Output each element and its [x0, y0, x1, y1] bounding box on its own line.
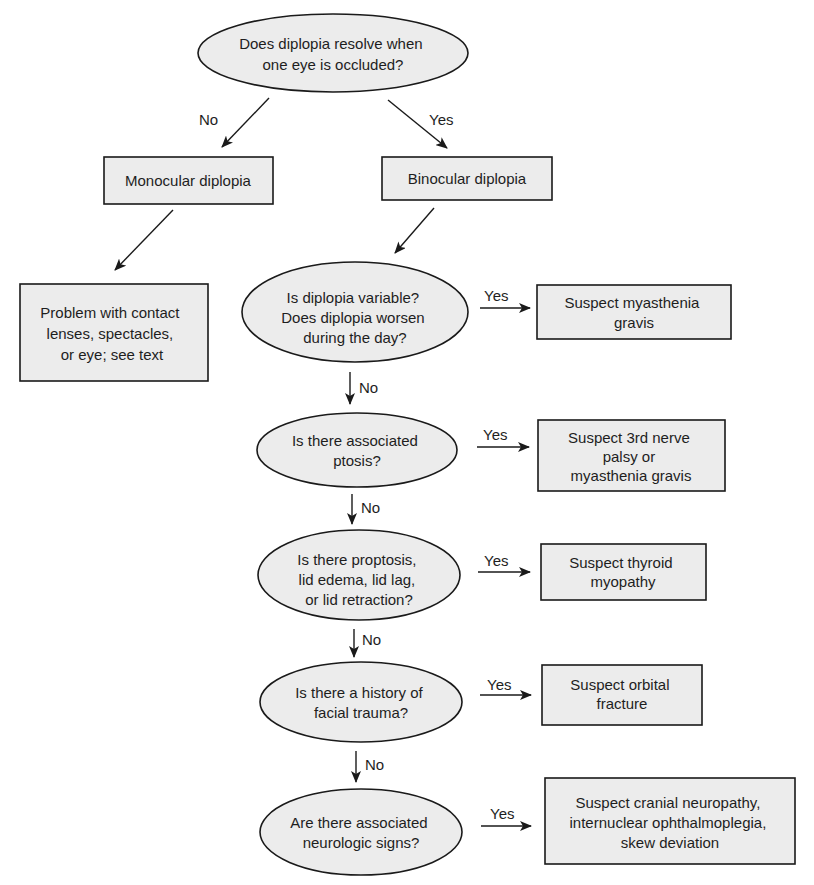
- edge-label-yes: Yes: [483, 426, 507, 443]
- node-q-ptosis: Is there associated ptosis?: [257, 413, 457, 487]
- node-label: Is there proptosis, lid edema, lid lag, …: [297, 551, 420, 608]
- edge-monocular-to-cause: [115, 210, 173, 270]
- edge-label-no: No: [362, 631, 381, 648]
- edge-label-no: No: [361, 499, 380, 516]
- edge-label-no: No: [359, 379, 378, 396]
- node-mono-cause: Problem with contact lenses, spectacles,…: [20, 284, 208, 381]
- node-r-orbital: Suspect orbital fracture: [542, 665, 702, 725]
- edge-label-yes: Yes: [429, 111, 453, 128]
- node-label: Problem with contact lenses, spectacles,…: [40, 304, 183, 363]
- decision-ellipse: [257, 413, 457, 487]
- edge-binocular-to-variable: [395, 208, 434, 253]
- node-q-variable: Is diplopia variable? Does diplopia wors…: [242, 262, 468, 362]
- decision-ellipse: [198, 14, 468, 92]
- result-box: [541, 544, 706, 600]
- node-label: Monocular diplopia: [125, 172, 252, 189]
- node-label: Binocular diplopia: [408, 170, 527, 187]
- edge-label-yes: Yes: [487, 676, 511, 693]
- decision-ellipse: [260, 789, 462, 875]
- diplopia-flowchart: No Yes Yes No Yes No Yes No Yes No Yes D…: [0, 0, 814, 885]
- node-r-thyroid: Suspect thyroid myopathy: [541, 544, 706, 600]
- decision-ellipse: [260, 662, 462, 742]
- edge-label-no: No: [199, 111, 218, 128]
- node-label: Is diplopia variable? Does diplopia wors…: [281, 289, 429, 346]
- node-r-third-nerve: Suspect 3rd nerve palsy or myasthenia gr…: [538, 420, 725, 491]
- node-monocular: Monocular diplopia: [104, 157, 273, 204]
- edge-label-yes: Yes: [484, 552, 508, 569]
- edge-label-no: No: [365, 756, 384, 773]
- node-q-neuro: Are there associated neurologic signs?: [260, 789, 462, 875]
- node-q-occluded: Does diplopia resolve when one eye is oc…: [198, 14, 468, 92]
- node-q-proptosis: Is there proptosis, lid edema, lid lag, …: [258, 530, 460, 620]
- node-r-myasthenia: Suspect myasthenia gravis: [537, 285, 731, 339]
- node-binocular: Binocular diplopia: [382, 157, 552, 200]
- node-q-trauma: Is there a history of facial trauma?: [260, 662, 462, 742]
- edge-occluded-to-monocular: [222, 98, 269, 147]
- edge-label-yes: Yes: [484, 287, 508, 304]
- node-r-cranial: Suspect cranial neuropathy, internuclear…: [545, 778, 795, 864]
- edge-label-yes: Yes: [490, 805, 514, 822]
